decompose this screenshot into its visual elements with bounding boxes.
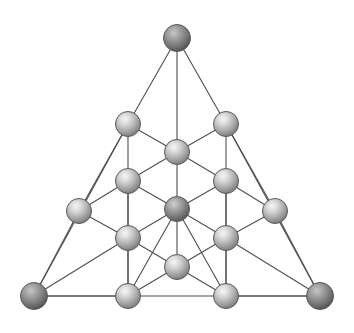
atom-node-apex-vertex — [164, 25, 191, 52]
tetrahedral-cluster-diagram — [0, 0, 354, 333]
atom-node-base-right-mid — [214, 284, 239, 309]
atom-node-row2-left — [116, 112, 141, 137]
atom-node-row3-right-outer — [263, 199, 288, 224]
atom-node-row3-left-inner — [116, 169, 141, 194]
atom-node-row3-mid-left — [116, 226, 141, 251]
bond-l3e-l4d — [177, 209, 226, 296]
atom-node-row3-left-outer — [67, 199, 92, 224]
atom-node-row2-right — [214, 112, 239, 137]
atom-node-row3-mid-right — [214, 226, 239, 251]
bond-l3g-l4e — [226, 238, 320, 296]
bond-apex-l2b — [177, 38, 226, 124]
bond-apex-l2a — [128, 38, 177, 124]
atom-node-base-right-corner — [307, 283, 334, 310]
bond-l3f-l4a — [34, 238, 128, 296]
atom-node-row3-right-inner — [214, 169, 239, 194]
atom-node-row3-center — [165, 197, 190, 222]
atom-node-base-center-front — [165, 255, 190, 280]
atom-node-row2-center-front — [165, 140, 190, 165]
atom-node-base-left-corner — [21, 283, 48, 310]
atom-node-base-left-mid — [116, 284, 141, 309]
bond-l3e-l4b — [128, 209, 177, 296]
cluster-figure-root — [0, 0, 354, 333]
